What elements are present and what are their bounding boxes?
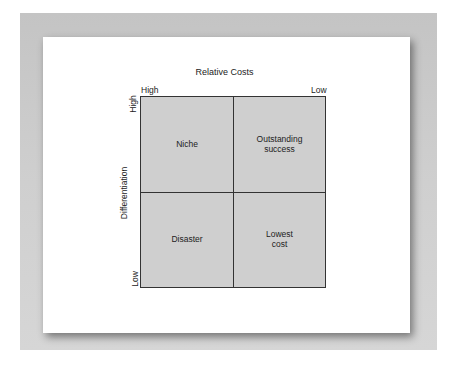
quadrant-grid: Niche Outstanding success Disaster Lowes…: [140, 96, 326, 288]
y-axis-high-label: High: [128, 95, 138, 112]
horizontal-divider: [141, 192, 325, 193]
quadrant-label: Lowest cost: [260, 230, 300, 250]
diagram-title: Relative Costs: [0, 67, 449, 77]
quadrant-disaster: Disaster: [141, 193, 233, 287]
quadrant-label: Disaster: [171, 235, 202, 245]
quadrant-label: Outstanding success: [250, 135, 310, 155]
quadrant-outstanding-success: Outstanding success: [234, 97, 325, 192]
y-axis-low-label: Low: [130, 271, 140, 287]
x-axis-low-label: Low: [311, 85, 327, 95]
y-axis-title: Differentiation: [119, 167, 129, 219]
x-axis-high-label: High: [141, 85, 158, 95]
quadrant-niche: Niche: [141, 97, 233, 192]
quadrant-label: Niche: [176, 140, 198, 150]
quadrant-lowest-cost: Lowest cost: [234, 193, 325, 287]
